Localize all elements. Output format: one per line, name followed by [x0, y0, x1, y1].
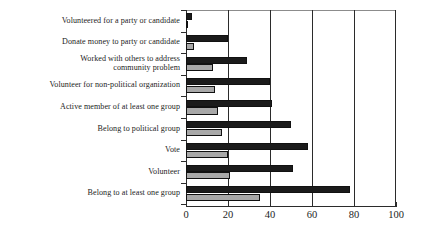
bar-group — [186, 100, 396, 115]
category-label: Volunteer — [2, 167, 180, 177]
category-label-column: Volunteered for a party or candidateDona… — [0, 10, 180, 206]
bar-dark — [186, 143, 308, 150]
category-label-line: Belong to political group — [2, 124, 180, 134]
y-tick — [181, 75, 186, 76]
bar-group — [186, 121, 396, 136]
bar-dark — [186, 186, 350, 193]
y-tick — [181, 183, 186, 184]
y-tick — [181, 161, 186, 162]
bar-group — [186, 35, 396, 50]
category-label-line: Vote — [2, 145, 180, 155]
y-tick — [181, 32, 186, 33]
y-tick — [181, 96, 186, 97]
x-tick-label: 100 — [388, 209, 404, 221]
category-label: Active member of at least one group — [2, 102, 180, 112]
category-label-line: Volunteered for a party or candidate — [2, 16, 180, 26]
category-label: Donate money to party or candidate — [2, 37, 180, 47]
category-label: Worked with others to addresscommunity p… — [2, 54, 180, 73]
category-label-line: Volunteer — [2, 167, 180, 177]
category-label-line: Volunteer for non-political organization — [2, 80, 180, 90]
bar-dark — [186, 121, 291, 128]
bar-light — [186, 151, 228, 158]
bar-dark — [186, 78, 270, 85]
bar-group — [186, 57, 396, 72]
plot-area — [186, 10, 396, 206]
category-label-line: community problem — [2, 63, 180, 73]
x-tick — [186, 202, 187, 207]
category-label: Belong to political group — [2, 124, 180, 134]
y-tick — [181, 118, 186, 119]
category-label: Volunteered for a party or candidate — [2, 16, 180, 26]
x-tick — [396, 202, 397, 207]
x-tick-label: 60 — [307, 209, 318, 221]
category-label-line: Worked with others to address — [2, 54, 180, 64]
y-tick — [181, 10, 186, 11]
bar-light — [186, 172, 230, 179]
category-label: Volunteer for non-political organization — [2, 80, 180, 90]
category-label-line: Active member of at least one group — [2, 102, 180, 112]
y-tick — [181, 140, 186, 141]
bar-light — [186, 43, 194, 50]
x-tick-label: 20 — [223, 209, 234, 221]
bar-group — [186, 13, 396, 28]
y-tick — [181, 53, 186, 54]
bar-group — [186, 78, 396, 93]
bar-group — [186, 165, 396, 180]
bar-light — [186, 107, 218, 114]
x-tick-label: 80 — [349, 209, 360, 221]
category-label: Belong to at least one group — [2, 188, 180, 198]
x-tick — [312, 202, 313, 207]
bar-light — [186, 194, 260, 201]
bar-dark — [186, 165, 293, 172]
bar-group — [186, 186, 396, 201]
bar-dark — [186, 35, 228, 42]
bar-group — [186, 143, 396, 158]
bar-light — [186, 21, 188, 28]
x-tick — [354, 202, 355, 207]
x-tick — [228, 202, 229, 207]
x-tick-label: 0 — [183, 209, 188, 221]
bar-light — [186, 64, 213, 71]
bar-light — [186, 86, 215, 93]
x-tick-label: 40 — [265, 209, 276, 221]
category-label-line: Belong to at least one group — [2, 188, 180, 198]
x-axis-line — [186, 206, 397, 207]
category-label: Vote — [2, 145, 180, 155]
bar-light — [186, 129, 222, 136]
bar-dark — [186, 13, 192, 20]
bar-chart: Volunteered for a party or candidateDona… — [0, 0, 427, 245]
x-tick — [270, 202, 271, 207]
bar-dark — [186, 100, 272, 107]
category-label-line: Donate money to party or candidate — [2, 37, 180, 47]
bar-dark — [186, 57, 247, 64]
